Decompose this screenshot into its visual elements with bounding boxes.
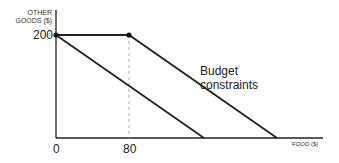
budget-constraints-annotation: Budget constraints bbox=[200, 64, 258, 92]
y-tick-200: 200 bbox=[33, 28, 53, 42]
annotation-line1: Budget bbox=[200, 64, 258, 78]
y-axis-label-line1: OTHER bbox=[4, 9, 52, 17]
y-axis-label-line2: GOODS ($) bbox=[4, 17, 52, 25]
point-80-200 bbox=[126, 32, 131, 37]
point-0-200 bbox=[53, 32, 58, 37]
y-axis-label: OTHER GOODS ($) bbox=[4, 9, 52, 25]
budget-line-original bbox=[56, 35, 204, 138]
x-tick-0: 0 bbox=[53, 142, 60, 156]
annotation-line2: constraints bbox=[200, 78, 258, 92]
x-tick-80: 80 bbox=[123, 142, 136, 156]
x-axis-label: FOOD ($) bbox=[292, 141, 318, 147]
